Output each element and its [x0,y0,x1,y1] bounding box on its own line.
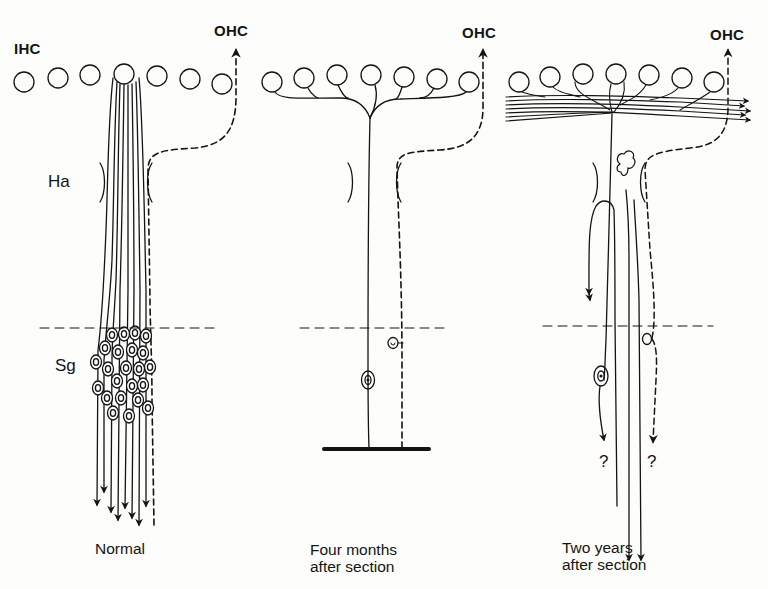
ganglion-cell-small [388,338,398,349]
hair-cell [294,68,314,88]
hair-cell [540,67,560,87]
unknown-target-mark: ? [647,452,656,472]
ganglion-cell [102,391,113,405]
ganglion-cell [107,328,118,342]
habenula-bracket [593,163,598,202]
afferent-fibre-bundle [97,78,146,525]
panel-two-years [506,50,750,560]
diagram-drawing [0,0,768,589]
hair-cell [180,69,200,89]
radial-fibre [604,114,612,380]
hair-cell [509,72,529,92]
ganglion-cell [103,362,114,376]
ganglion-cell [127,379,138,393]
caption-four-months: Four months after section [310,541,397,575]
ganglion-cell [113,345,124,359]
ganglion-cell [145,360,156,374]
ganglion-cell [112,374,123,388]
ganglion-cell [134,362,145,376]
caption-line: after section [310,558,397,575]
efferent-fibre-dashed [652,339,657,442]
sprouting-ending [617,151,635,175]
hair-cell-innervated [114,64,134,84]
ganglion-cell [108,406,119,420]
ganglion-cell [93,381,104,395]
ganglion-cell [116,391,127,405]
hair-cell-row [14,64,232,94]
panel-normal [14,50,236,525]
caption-line: after section [562,556,646,573]
branched-dendrite [275,85,466,448]
hair-cell [147,66,167,86]
ganglion-cell [143,401,154,415]
ihc-label: IHC [14,40,41,57]
habenula-bracket [641,163,646,202]
ganglion-cell [119,327,130,341]
hair-cell [48,68,68,88]
ganglion-cell [138,346,149,360]
hair-cell [704,72,724,92]
hair-cell [212,74,232,94]
caption-line: Normal [95,540,145,557]
hair-cell [672,68,692,88]
habenula-bracket [348,163,353,202]
ganglion-cell-small [643,334,652,345]
hair-cell [573,64,593,84]
ha-label: Ha [48,172,70,192]
unknown-target-mark: ? [599,452,608,472]
ohc-label-four-months: OHC [462,24,496,41]
caption-line: Two years [562,539,646,556]
habenula-bracket [100,163,105,202]
hair-cell [394,67,414,87]
regrowing-fibre [634,200,641,560]
ganglion-cell [121,361,132,375]
ganglion-cell [100,341,111,355]
caption-normal: Normal [95,540,145,557]
hair-cell-row [262,65,479,92]
sg-label: Sg [55,356,76,376]
hair-cell [639,65,659,85]
hair-cell-row [509,64,724,92]
hair-cell [80,65,100,85]
ganglion-cell [133,393,144,407]
efferent-fibre-dashed [148,50,236,525]
hair-cell [606,64,626,84]
ganglion-cell [127,343,138,357]
ganglion-cell [141,329,152,343]
cochlear-innervation-diagram: IHC Ha Sg OHC OHC OHC Normal Four months… [0,0,768,589]
hair-cell [459,72,479,92]
hair-cell [427,69,447,89]
ganglion-cell [138,378,149,392]
hair-cell [361,65,381,85]
hair-cell [262,72,282,92]
regrowing-fibre [626,190,629,560]
efferent-fibre-dashed [645,50,728,338]
caption-line: Four months [310,541,397,558]
hair-cell [327,65,347,85]
ganglion-cell [91,355,102,369]
hair-cell [14,72,34,92]
ohc-label-two-years: OHC [710,26,744,43]
panel-four-months [262,50,483,449]
spiral-fibre-bundle [506,82,750,121]
efferent-fibre-dashed [397,50,483,448]
caption-two-years: Two years after section [562,539,646,573]
ganglion-cell [124,409,135,423]
ohc-label-normal: OHC [214,22,248,39]
